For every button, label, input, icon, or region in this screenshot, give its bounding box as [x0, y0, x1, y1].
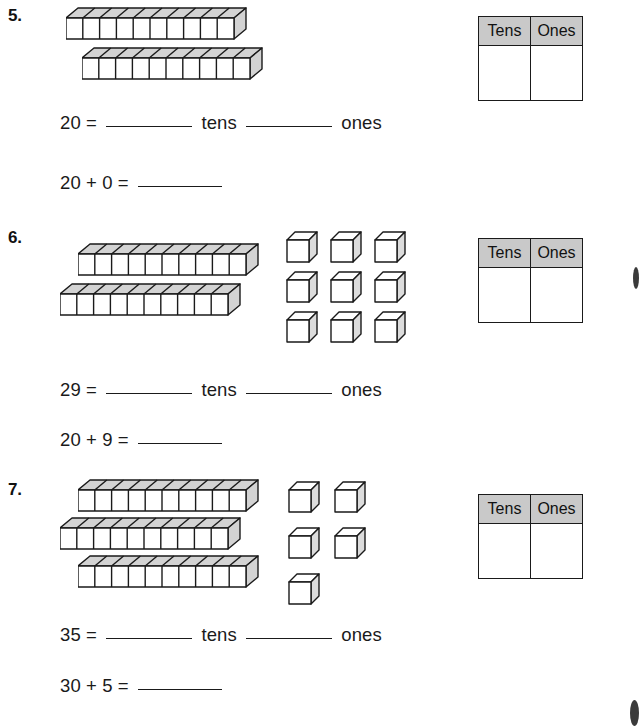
tens-answer-cell[interactable] — [479, 268, 531, 323]
base-ten-unit-cube-icon — [286, 270, 320, 310]
base-ten-unit-cube-icon — [330, 270, 364, 310]
ones-label: ones — [341, 112, 382, 133]
table-header-row: Tens Ones — [479, 495, 583, 524]
base-ten-rod-icon — [60, 282, 250, 326]
problem-6-sum-expression: 20 + 9 = — [60, 429, 129, 450]
base-ten-unit-cube-icon — [330, 230, 364, 270]
problem-5-number: 5. — [8, 6, 22, 26]
tens-label: tens — [201, 379, 236, 400]
tens-column-header: Tens — [479, 239, 531, 268]
base-ten-unit-cube-icon — [288, 572, 322, 612]
sum-blank[interactable] — [138, 689, 222, 690]
ones-blank[interactable] — [246, 638, 332, 639]
ones-column-header: Ones — [531, 495, 583, 524]
base-ten-unit-cube-icon — [374, 310, 408, 350]
base-ten-unit-cube-icon — [374, 270, 408, 310]
page-edge-artifact — [633, 267, 639, 289]
problem-7-value: 35 — [60, 624, 81, 645]
equals-sign: = — [86, 112, 97, 133]
table-answer-row — [479, 46, 583, 101]
base-ten-unit-cube-icon — [334, 480, 368, 520]
problem-5-sum-line: 20 + 0 = — [60, 172, 226, 194]
tens-blank[interactable] — [106, 638, 192, 639]
ones-answer-cell[interactable] — [531, 46, 583, 101]
tens-answer-cell[interactable] — [479, 46, 531, 101]
base-ten-rod-icon — [78, 554, 268, 598]
sum-blank[interactable] — [138, 443, 222, 444]
ones-answer-cell[interactable] — [531, 524, 583, 579]
problem-7-sum-expression: 30 + 5 = — [60, 675, 129, 696]
place-value-table: Tens Ones — [478, 494, 583, 579]
tens-blank[interactable] — [106, 126, 192, 127]
ones-blank[interactable] — [246, 126, 332, 127]
equals-sign: = — [86, 379, 97, 400]
ones-label: ones — [341, 624, 382, 645]
table-header-row: Tens Ones — [479, 239, 583, 268]
tens-answer-cell[interactable] — [479, 524, 531, 579]
table-header-row: Tens Ones — [479, 17, 583, 46]
base-ten-rod-icon — [66, 6, 256, 50]
table-answer-row — [479, 524, 583, 579]
base-ten-unit-cube-icon — [288, 480, 322, 520]
ones-column-header: Ones — [531, 17, 583, 46]
base-ten-unit-cube-icon — [330, 310, 364, 350]
page-edge-artifact — [630, 700, 639, 726]
problem-6-value: 29 — [60, 379, 81, 400]
base-ten-rod-icon — [82, 46, 272, 90]
base-ten-unit-cube-icon — [286, 230, 320, 270]
problem-5-value: 20 — [60, 112, 81, 133]
place-value-table: Tens Ones — [478, 16, 583, 101]
equals-sign: = — [86, 624, 97, 645]
ones-label: ones — [341, 379, 382, 400]
base-ten-unit-cube-icon — [286, 310, 320, 350]
table-answer-row — [479, 268, 583, 323]
sum-blank[interactable] — [138, 186, 222, 187]
tens-column-header: Tens — [479, 17, 531, 46]
tens-label: tens — [201, 112, 236, 133]
problem-7-number: 7. — [8, 480, 22, 500]
problem-7-sum-line: 30 + 5 = — [60, 675, 226, 697]
ones-blank[interactable] — [246, 393, 332, 394]
base-ten-unit-cube-icon — [374, 230, 408, 270]
problem-6-number: 6. — [8, 228, 22, 248]
base-ten-unit-cube-icon — [334, 526, 368, 566]
tens-column-header: Tens — [479, 495, 531, 524]
problem-5-tens-ones-line: 20 = tens ones — [60, 112, 382, 134]
problem-6-sum-line: 20 + 9 = — [60, 429, 226, 451]
problem-5-sum-expression: 20 + 0 = — [60, 172, 129, 193]
ones-answer-cell[interactable] — [531, 268, 583, 323]
ones-column-header: Ones — [531, 239, 583, 268]
problem-7-tens-ones-line: 35 = tens ones — [60, 624, 382, 646]
tens-blank[interactable] — [106, 393, 192, 394]
tens-label: tens — [201, 624, 236, 645]
base-ten-rod-icon — [78, 242, 268, 286]
base-ten-unit-cube-icon — [288, 526, 322, 566]
problem-6-tens-ones-line: 29 = tens ones — [60, 379, 382, 401]
place-value-table: Tens Ones — [478, 238, 583, 323]
